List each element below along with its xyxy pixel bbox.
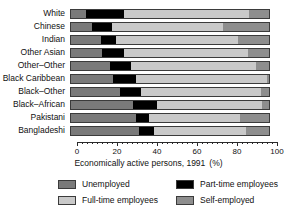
legend-item[interactable]: Full-time employees bbox=[58, 192, 170, 208]
x-tick-minor bbox=[142, 142, 143, 144]
x-tick-minor bbox=[217, 142, 218, 144]
x-tick-major bbox=[117, 142, 118, 146]
legend-swatch-icon bbox=[176, 196, 194, 205]
bar-segment bbox=[136, 74, 267, 84]
x-tick-minor bbox=[147, 142, 148, 144]
bar-segment bbox=[238, 35, 270, 45]
stacked-bar bbox=[70, 74, 270, 84]
x-tick-minor bbox=[252, 142, 253, 144]
x-tick-label: 0 bbox=[75, 147, 79, 156]
x-tick-major bbox=[237, 142, 238, 146]
bar-segment bbox=[70, 48, 102, 58]
bar-row: Black–Other bbox=[0, 85, 297, 98]
x-tick-major bbox=[277, 142, 278, 146]
stacked-bar-chart: WhiteChineseIndianOther AsianOther–Other… bbox=[0, 0, 297, 215]
bar-segment bbox=[262, 100, 270, 110]
legend-swatch-icon bbox=[58, 196, 76, 205]
bar-segment bbox=[261, 87, 270, 97]
legend-label: Unemployed bbox=[82, 179, 130, 189]
bar-row: White bbox=[0, 7, 297, 20]
x-tick-minor bbox=[82, 142, 83, 144]
bar-rows: WhiteChineseIndianOther AsianOther–Other… bbox=[0, 7, 297, 137]
x-tick-minor bbox=[212, 142, 213, 144]
legend-item[interactable]: Part-time employees bbox=[176, 176, 288, 192]
x-tick-minor bbox=[227, 142, 228, 144]
category-label: Black–Other bbox=[0, 87, 70, 96]
bar-segment bbox=[101, 35, 116, 45]
stacked-bar bbox=[70, 61, 270, 71]
stacked-bar bbox=[70, 126, 270, 136]
bar-row: Bangladeshi bbox=[0, 124, 297, 137]
x-tick-minor bbox=[102, 142, 103, 144]
x-tick-minor bbox=[97, 142, 98, 144]
x-tick-minor bbox=[232, 142, 233, 144]
stacked-bar bbox=[70, 22, 270, 32]
bar-segment bbox=[113, 74, 136, 84]
bar-row: Black Caribbean bbox=[0, 72, 297, 85]
category-label: Other Asian bbox=[0, 48, 70, 57]
bar-segment bbox=[131, 61, 256, 71]
legend-label: Full-time employees bbox=[82, 195, 158, 205]
x-tick-label: 40 bbox=[153, 147, 162, 156]
bar-segment bbox=[256, 61, 270, 71]
bar-segment bbox=[92, 22, 112, 32]
bar-segment bbox=[102, 48, 124, 58]
category-label: Bangladeshi bbox=[0, 126, 70, 135]
plot-area: WhiteChineseIndianOther AsianOther–Other… bbox=[0, 0, 297, 145]
bar-segment bbox=[267, 74, 270, 84]
category-label: Chinese bbox=[0, 22, 70, 31]
bar-segment bbox=[70, 61, 110, 71]
x-tick-minor bbox=[137, 142, 138, 144]
bar-segment bbox=[154, 126, 246, 136]
stacked-bar bbox=[70, 113, 270, 123]
bar-segment bbox=[70, 35, 101, 45]
x-axis-title: Economically active persons, 1991(%) bbox=[0, 158, 297, 168]
category-label: White bbox=[0, 9, 70, 18]
x-tick-minor bbox=[87, 142, 88, 144]
x-tick-minor bbox=[167, 142, 168, 144]
bar-row: Pakistani bbox=[0, 111, 297, 124]
stacked-bar bbox=[70, 48, 270, 58]
x-tick-minor bbox=[207, 142, 208, 144]
bar-segment bbox=[124, 48, 248, 58]
x-axis-unit: (%) bbox=[209, 158, 222, 168]
bar-segment bbox=[70, 113, 136, 123]
bar-segment bbox=[133, 100, 157, 110]
bar-segment bbox=[70, 87, 120, 97]
bar-segment bbox=[136, 113, 149, 123]
stacked-bar bbox=[70, 87, 270, 97]
x-tick-minor bbox=[182, 142, 183, 144]
legend-label: Self-employed bbox=[200, 195, 254, 205]
x-tick-minor bbox=[267, 142, 268, 144]
x-tick-minor bbox=[187, 142, 188, 144]
stacked-bar bbox=[70, 9, 270, 19]
x-tick-minor bbox=[92, 142, 93, 144]
category-label: Indian bbox=[0, 35, 70, 44]
bar-row: Chinese bbox=[0, 20, 297, 33]
x-tick-minor bbox=[107, 142, 108, 144]
bar-segment bbox=[139, 126, 154, 136]
x-tick-minor bbox=[257, 142, 258, 144]
category-label: Other–Other bbox=[0, 61, 70, 70]
x-tick-minor bbox=[192, 142, 193, 144]
bar-segment bbox=[120, 87, 141, 97]
legend-item[interactable]: Self-employed bbox=[176, 192, 288, 208]
bar-row: Black–African bbox=[0, 98, 297, 111]
x-tick-minor bbox=[202, 142, 203, 144]
x-tick-minor bbox=[177, 142, 178, 144]
legend-item[interactable]: Unemployed bbox=[58, 176, 170, 192]
bar-segment bbox=[112, 22, 223, 32]
bar-segment bbox=[223, 22, 270, 32]
x-tick-minor bbox=[132, 142, 133, 144]
legend-swatch-icon bbox=[176, 180, 194, 189]
bar-segment bbox=[70, 126, 139, 136]
x-tick-minor bbox=[112, 142, 113, 144]
x-tick-label: 100 bbox=[270, 147, 283, 156]
x-tick-minor bbox=[262, 142, 263, 144]
bar-row: Indian bbox=[0, 33, 297, 46]
category-label: Black–African bbox=[0, 100, 70, 109]
stacked-bar bbox=[70, 100, 270, 110]
x-tick-minor bbox=[247, 142, 248, 144]
bar-segment bbox=[240, 113, 270, 123]
bar-segment bbox=[249, 9, 270, 19]
